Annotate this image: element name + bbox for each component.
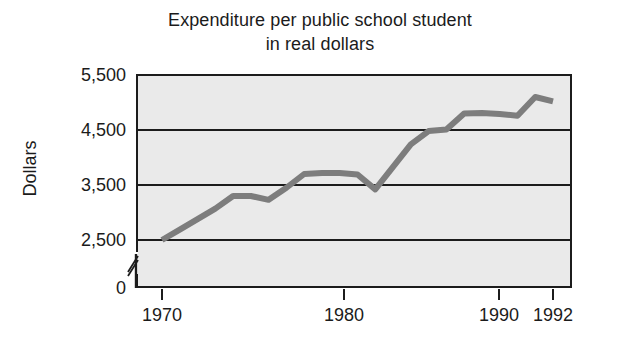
x-tick-label-1990: 1990	[479, 305, 519, 325]
y-tick-label-4500: 4,500	[48, 121, 126, 139]
chart-title-line-1: Expenditure per public school student	[110, 8, 530, 32]
chart-figure: Expenditure per public school student in…	[0, 0, 620, 351]
y-tick-label-0: 0	[48, 279, 126, 297]
y-tick-label-2500: 2,500	[48, 231, 126, 249]
x-tick-label-1992: 1992	[533, 305, 573, 325]
y-tick-label-5500: 5,500	[48, 66, 126, 84]
chart-title: Expenditure per public school student in…	[110, 8, 530, 56]
plot-area	[136, 74, 572, 288]
y-axis-label-container: Dollars	[8, 110, 52, 240]
chart-title-line-2: in real dollars	[110, 32, 530, 56]
y-axis-tick-labels: 5,500 4,500 3,500 2,500 0	[48, 0, 126, 351]
x-axis-ticks	[162, 289, 553, 300]
y-axis-label: Dollars	[20, 114, 41, 224]
x-tick-label-1970: 1970	[142, 305, 182, 325]
y-tick-label-3500: 3,500	[48, 176, 126, 194]
x-tick-label-1980: 1980	[324, 305, 364, 325]
